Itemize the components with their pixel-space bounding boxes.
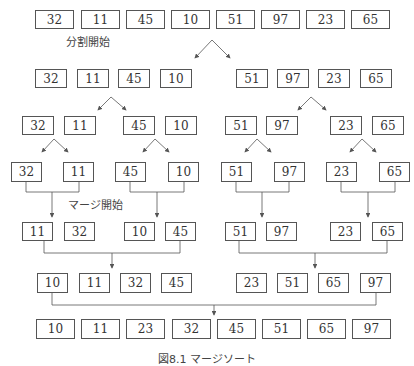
row-initial-cell: 32 [35,10,74,29]
row-merge-3-cell: 51 [262,319,301,339]
row-split-1-cell: 23 [318,69,350,88]
row-merge-3-cell: 23 [126,319,165,339]
row-merge-2-cell: 65 [318,273,349,293]
row-split-2-cell: 97 [266,116,298,135]
split-start-label: 分割開始 [66,33,110,49]
merge-start-label: マージ開始 [68,196,123,212]
row-split-2-cell: 45 [123,116,155,135]
split-arrow-2-left [98,97,126,110]
row-split-2-cell: 23 [330,116,362,135]
merge-bracket-1-c [236,182,289,217]
merge-bracket-3 [52,293,376,315]
row-merge-3-cell: 45 [217,319,256,339]
row-merge-2-cell: 11 [79,273,110,293]
row-split-3-cell: 65 [379,162,410,182]
row-initial-cell: 51 [216,10,255,29]
merge-bracket-2-right [239,241,387,268]
figure-caption: 図8.1 マージソート [0,350,414,366]
row-split-3-cell: 10 [168,162,199,182]
row-initial-cell: 23 [306,10,345,29]
row-merge-3-cell: 32 [172,319,211,339]
row-merge-1-cell: 51 [225,222,256,241]
row-merge-2-cell: 51 [277,273,308,293]
row-split-1-cell: 51 [236,69,268,88]
row-merge-3-cell: 65 [307,319,346,339]
merge-bracket-1-d [341,182,395,217]
split-arrow-3-c [245,139,271,152]
row-merge-2-cell: 45 [161,273,192,293]
row-split-1-cell: 32 [35,69,67,88]
row-split-2-cell: 11 [64,116,96,135]
split-arrow-3-b [143,139,169,152]
row-initial-cell: 97 [261,10,300,29]
merge-bracket-2-left [44,241,180,268]
row-split-2-cell: 65 [372,116,404,135]
row-merge-3-cell: 97 [352,319,391,339]
row-split-2-cell: 32 [22,116,54,135]
row-split-1-cell: 10 [160,69,192,88]
row-split-1-cell: 11 [77,69,109,88]
row-merge-1-cell: 11 [22,222,53,241]
row-merge-3-cell: 10 [36,319,75,339]
row-merge-1-cell: 65 [372,222,403,241]
row-split-3-cell: 45 [115,162,146,182]
row-split-2-cell: 10 [165,116,197,135]
row-initial-cell: 65 [351,10,390,29]
row-merge-1-cell: 32 [64,222,95,241]
split-arrow-3-d [350,139,376,152]
split-arrow-2-right [298,97,326,110]
row-initial-cell: 45 [126,10,165,29]
row-initial-cell: 10 [171,10,210,29]
row-split-1-cell: 97 [277,69,309,88]
row-split-1-cell: 45 [118,69,150,88]
row-merge-1-cell: 10 [124,222,155,241]
row-merge-1-cell: 23 [330,222,361,241]
split-arrow-1 [195,40,230,58]
split-arrow-3-a [42,139,68,152]
row-merge-2-cell: 23 [236,273,267,293]
row-split-3-cell: 32 [11,162,42,182]
row-split-3-cell: 97 [274,162,305,182]
row-split-3-cell: 11 [63,162,94,182]
row-split-2-cell: 51 [225,116,257,135]
row-initial-cell: 11 [81,10,120,29]
row-merge-3-cell: 11 [81,319,120,339]
row-split-1-cell: 65 [360,69,392,88]
row-merge-2-cell: 10 [37,273,68,293]
row-merge-1-cell: 45 [165,222,196,241]
row-split-3-cell: 51 [221,162,252,182]
merge-bracket-1-b [130,182,184,217]
row-merge-2-cell: 32 [120,273,151,293]
row-merge-2-cell: 97 [360,273,391,293]
row-merge-1-cell: 97 [266,222,297,241]
row-split-3-cell: 23 [326,162,357,182]
